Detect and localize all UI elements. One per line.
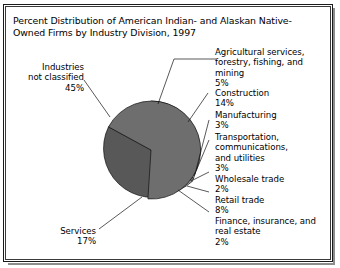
slice-label-manufacturing: Manufacturing 3% (215, 110, 333, 131)
leader-line-construction (188, 93, 208, 122)
slice-label-construction: Construction 14% (215, 88, 333, 109)
pie-slices (104, 101, 201, 199)
slice-label-industries: Industries not classified 45% (12, 62, 84, 93)
slice-label-retail: Retail trade 8% (215, 195, 333, 216)
slice-label-transportation: Transportation, communications, and util… (215, 132, 333, 174)
leader-line-retail (187, 186, 209, 192)
slice-label-services: Services 17% (20, 226, 96, 247)
leader-line-services (99, 197, 142, 229)
slice-label-agricultural: Agricultural services, forestry, fishing… (215, 47, 333, 89)
slice-label-wholesale: Wholesale trade 2% (215, 174, 333, 195)
leader-line-industries (84, 80, 110, 117)
leader-line-finance (178, 190, 209, 212)
leader-line-agricultural (158, 59, 216, 104)
slice-label-finance: Finance, insurance, and real estate 2% (215, 216, 333, 247)
